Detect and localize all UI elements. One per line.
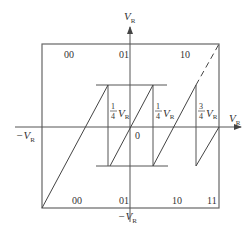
svg-text:1: 1: [111, 102, 115, 111]
top-code-00: 00: [64, 49, 74, 60]
svg-text:3: 3: [199, 102, 203, 111]
y-axis-top-label: VR: [124, 10, 136, 25]
svg-text:1: 1: [156, 102, 160, 111]
bottom-code-10: 10: [172, 195, 182, 206]
svg-text:4: 4: [199, 112, 203, 121]
threshold-label-2: 1 4 VR: [155, 102, 175, 121]
ramp-extension-dashed: [196, 44, 219, 85]
top-code-01: 01: [119, 49, 129, 60]
bottom-code-11: 11: [207, 195, 217, 206]
svg-text:VR: VR: [206, 107, 218, 121]
ramp-segment-01: [110, 85, 153, 166]
svg-text:4: 4: [111, 112, 115, 121]
svg-text:VR: VR: [163, 107, 175, 121]
transfer-characteristic-diagram: VR −VR VR −VR 0 00 01 10 00 01 10 11 1 4…: [0, 0, 252, 236]
top-code-10: 10: [180, 49, 190, 60]
x-axis-left-label: −VR: [16, 129, 35, 144]
ramp-segment-11: [196, 127, 219, 166]
y-axis-bottom-label: −VR: [118, 210, 137, 225]
svg-text:VR: VR: [118, 107, 130, 121]
ramp-segment-00: [42, 85, 108, 208]
threshold-label-1: 1 4 VR: [110, 102, 130, 121]
threshold-label-3: 3 4 VR: [198, 102, 218, 121]
bottom-code-00: 00: [72, 195, 82, 206]
bottom-code-01: 01: [119, 195, 129, 206]
ramp-segment-10: [153, 85, 196, 166]
x-axis-right-label: VR: [229, 112, 241, 127]
origin-label: 0: [135, 130, 140, 141]
svg-text:4: 4: [156, 112, 160, 121]
